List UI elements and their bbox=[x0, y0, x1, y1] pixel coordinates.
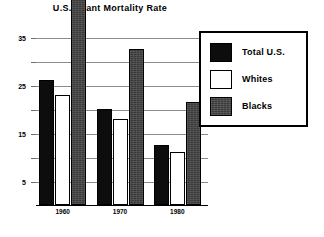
x-axis-label-1980: 1980 bbox=[170, 208, 184, 215]
bar-group-1980 bbox=[154, 13, 201, 205]
x-axis-baseline bbox=[36, 205, 208, 206]
bar-series-container bbox=[36, 14, 208, 206]
bar-1980-whites[interactable] bbox=[170, 152, 185, 205]
chart-title: U.S. Infant Mortality Rate bbox=[0, 3, 220, 13]
y-axis-label-15: 15 bbox=[18, 131, 26, 138]
infant-mortality-bar-chart: U.S. Infant Mortality Rate 5152535 19601… bbox=[0, 0, 324, 237]
bar-1970-blacks[interactable] bbox=[129, 49, 144, 205]
bar-1960-blacks[interactable] bbox=[71, 0, 86, 205]
bar-1970-total-u-s[interactable] bbox=[97, 109, 112, 205]
bar-group-1960 bbox=[39, 13, 86, 205]
bar-1980-total-u-s[interactable] bbox=[154, 145, 169, 205]
y-axis-label-35: 35 bbox=[18, 35, 26, 42]
legend-item-whites[interactable]: Whites bbox=[210, 68, 273, 90]
plot-area bbox=[36, 14, 208, 206]
x-axis-label-1970: 1970 bbox=[113, 208, 127, 215]
y-axis-label-5: 5 bbox=[22, 179, 26, 186]
legend-label-total: Total U.S. bbox=[242, 47, 285, 57]
legend-swatch-total bbox=[210, 43, 232, 62]
bar-1960-total-u-s[interactable] bbox=[39, 80, 54, 205]
x-axis-labels: 196019701980 bbox=[36, 208, 208, 222]
chart-legend: Total U.S.WhitesBlacks bbox=[199, 31, 308, 127]
legend-label-blacks: Blacks bbox=[242, 101, 272, 111]
y-axis-labels: 5152535 bbox=[0, 14, 34, 206]
legend-item-blacks[interactable]: Blacks bbox=[210, 95, 272, 117]
bar-1960-whites[interactable] bbox=[55, 95, 70, 205]
legend-swatch-whites bbox=[210, 70, 232, 89]
bar-1970-whites[interactable] bbox=[113, 119, 128, 205]
y-axis-label-25: 25 bbox=[18, 83, 26, 90]
x-axis-label-1960: 1960 bbox=[55, 208, 69, 215]
legend-label-whites: Whites bbox=[242, 74, 273, 84]
bar-group-1970 bbox=[97, 13, 144, 205]
legend-swatch-blacks bbox=[210, 97, 232, 116]
legend-item-total[interactable]: Total U.S. bbox=[210, 41, 285, 63]
